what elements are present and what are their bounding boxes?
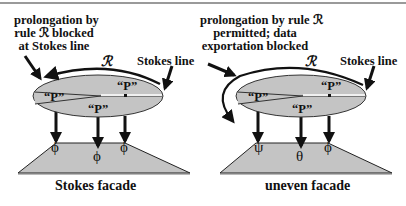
annotation-line-3: exportation blocked bbox=[200, 40, 310, 53]
facade-symbol-1: ϕ bbox=[51, 141, 59, 154]
sector-label-bottom: “P” bbox=[292, 103, 312, 116]
right-annotation: prolongation by rule ℛ permitted; data e… bbox=[200, 14, 310, 53]
annotation-arrow bbox=[25, 56, 40, 78]
facade-symbol-1: ψ bbox=[254, 141, 263, 154]
facade-symbol-3: ϕ bbox=[120, 141, 128, 154]
left-annotation: prolongation by rule ℛ blocked at Stokes… bbox=[14, 14, 94, 53]
sector-label-top: “P” bbox=[117, 80, 137, 93]
annotation-line-3: at Stokes line bbox=[14, 40, 94, 53]
stokes-line-label: Stokes line bbox=[340, 55, 397, 68]
facade-symbol-2: ϕ bbox=[93, 150, 101, 163]
sector-label-left: “P” bbox=[44, 91, 64, 104]
stokes-line-label: Stokes line bbox=[137, 55, 194, 68]
facade-symbol-3: ϕ bbox=[324, 141, 332, 154]
stokes-facade-plane bbox=[18, 143, 190, 173]
uneven-facade-plane bbox=[220, 143, 392, 173]
sector-label-top: “P” bbox=[321, 80, 341, 93]
stokes-facade-caption: Stokes facade bbox=[55, 178, 136, 194]
rule-symbol: ℛ bbox=[101, 55, 112, 68]
uneven-facade-caption: uneven facade bbox=[265, 178, 350, 194]
facade-symbol-2: θ bbox=[296, 150, 303, 163]
figure: prolongation by rule ℛ blocked at Stokes… bbox=[0, 0, 406, 206]
annotation-arrow bbox=[208, 64, 234, 75]
sector-label-bottom: “P” bbox=[88, 103, 108, 116]
stokes-line-arrow bbox=[165, 66, 172, 88]
sector-label-left: “P” bbox=[248, 91, 268, 104]
rule-symbol: ℛ bbox=[305, 55, 316, 68]
stokes-line-arrow bbox=[367, 66, 374, 88]
